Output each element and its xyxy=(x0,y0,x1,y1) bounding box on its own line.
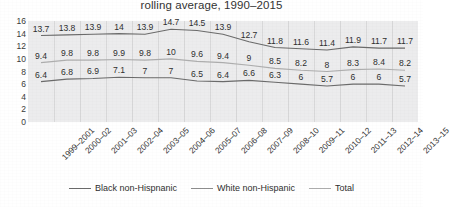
data-label: 5.7 xyxy=(399,75,411,84)
data-label: 13.8 xyxy=(59,24,76,33)
data-label: 9.6 xyxy=(191,50,203,59)
x-axis-tick: 2005–07 xyxy=(214,126,243,155)
data-label: 5.7 xyxy=(321,75,333,84)
data-label: 6.6 xyxy=(243,69,255,78)
legend-swatch-icon xyxy=(309,188,331,189)
data-label: 8.2 xyxy=(295,59,307,68)
data-label: 8.2 xyxy=(399,59,411,68)
x-axis-tick: 2012–14 xyxy=(396,126,425,155)
x-axis-tick: 2004–06 xyxy=(188,126,217,155)
data-label: 8.4 xyxy=(373,58,385,67)
x-axis-labels: 1999–20012000–022001–032002–042003–05200… xyxy=(0,124,423,172)
data-label: 11.6 xyxy=(293,38,309,47)
data-label: 11.8 xyxy=(267,37,283,46)
data-label: 9.8 xyxy=(139,49,151,58)
data-label: 6.9 xyxy=(87,67,99,76)
chart-legend: Black non-HispnanicWhite non-HispanicTot… xyxy=(0,180,423,196)
legend-item[interactable]: Total xyxy=(309,183,354,193)
x-axis-tick: 2011–13 xyxy=(369,126,398,155)
data-label: 13.9 xyxy=(137,23,154,32)
data-label: 6.4 xyxy=(35,71,47,80)
x-axis-tick: 2009–11 xyxy=(317,126,346,155)
x-axis-tick: 2006–08 xyxy=(240,126,269,155)
data-label: 6 xyxy=(377,73,382,82)
data-label: 6.4 xyxy=(217,71,229,80)
data-label: 14.5 xyxy=(189,19,206,28)
data-label: 7 xyxy=(169,67,174,76)
legend-label: Total xyxy=(335,183,354,193)
data-label: 6.3 xyxy=(269,71,281,80)
data-label: 13.9 xyxy=(85,23,102,32)
data-label: 8.5 xyxy=(269,57,281,66)
data-label: 6.8 xyxy=(61,68,73,77)
data-label: 11.9 xyxy=(345,36,361,45)
data-label: 6 xyxy=(351,73,356,82)
legend-label: Black non-Hispnanic xyxy=(95,183,177,193)
x-axis-tick: 2010–12 xyxy=(344,126,373,155)
x-axis-tick: 2001–03 xyxy=(110,126,139,155)
data-label: 13.7 xyxy=(33,25,50,34)
data-label: 9.8 xyxy=(61,49,73,58)
data-label: 11.7 xyxy=(397,37,413,46)
data-label: 11.4 xyxy=(319,39,335,48)
x-axis-tick: 2003–05 xyxy=(162,126,191,155)
data-label: 11.7 xyxy=(371,37,387,46)
data-labels-layer: 13.713.813.91413.914.714.513.912.711.811… xyxy=(0,0,423,124)
x-axis-tick: 2013–15 xyxy=(422,126,451,155)
x-axis-tick: 2002–04 xyxy=(136,126,165,155)
data-label: 10 xyxy=(166,48,176,57)
data-label: 14 xyxy=(114,23,124,32)
data-label: 14.7 xyxy=(163,18,180,27)
data-label: 6 xyxy=(299,73,304,82)
data-label: 9.4 xyxy=(217,52,229,61)
data-label: 8 xyxy=(325,61,330,70)
legend-swatch-icon xyxy=(69,188,91,189)
legend-label: White non-Hispanic xyxy=(217,183,295,193)
legend-swatch-icon xyxy=(191,188,213,189)
data-label: 6.5 xyxy=(191,70,203,79)
x-axis-tick: 2008–10 xyxy=(292,126,321,155)
data-label: 9 xyxy=(247,54,252,63)
data-label: 9.4 xyxy=(35,52,47,61)
x-axis-tick: 2007–09 xyxy=(266,126,295,155)
legend-item[interactable]: Black non-Hispnanic xyxy=(69,183,177,193)
data-label: 9.8 xyxy=(87,49,99,58)
data-label: 7.1 xyxy=(113,66,125,75)
data-label: 12.7 xyxy=(241,31,258,40)
data-label: 13.9 xyxy=(215,23,232,32)
data-label: 8.3 xyxy=(347,59,359,68)
legend-item[interactable]: White non-Hispanic xyxy=(191,183,295,193)
data-label: 7 xyxy=(143,67,148,76)
data-label: 9.9 xyxy=(113,49,125,58)
